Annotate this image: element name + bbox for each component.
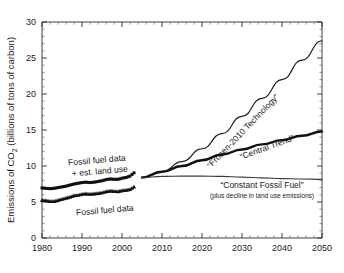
x-tick-label: 2020: [192, 243, 212, 253]
y-tick-label: 20: [26, 89, 36, 99]
svg-text:Emissions of CO2 (billions of: Emissions of CO2 (billions of tons of ca…: [5, 37, 18, 223]
x-tick-label: 2030: [232, 243, 252, 253]
figure-container: 051015202530 198019902000201020202030204…: [0, 0, 344, 273]
x-tick-label: 2040: [272, 243, 292, 253]
x-tick-label: 2010: [152, 243, 172, 253]
x-tick-label: 1980: [32, 243, 52, 253]
y-tick-label: 10: [26, 161, 36, 171]
svg-text:(plus decline in land use emis: (plus decline in land use emissions): [210, 192, 314, 200]
y-tick-label: 0: [31, 233, 36, 243]
y-tick-label: 25: [26, 53, 36, 63]
data-point: [133, 171, 136, 174]
y-tick-label: 5: [31, 197, 36, 207]
y-tick-label: 30: [26, 17, 36, 27]
y-tick-label: 15: [26, 125, 36, 135]
annotation-constant-fossil-fuel-subtitle: (plus decline in land use emissions): [210, 192, 314, 200]
emissions-chart: 051015202530 198019902000201020202030204…: [0, 0, 344, 273]
x-tick-label: 2050: [312, 243, 332, 253]
y-axis-title: Emissions of CO2 (billions of tons of ca…: [5, 37, 18, 223]
x-tick-label: 2000: [112, 243, 132, 253]
annotation-constant-fossil-fuel: “Constant Fossil Fuel”: [220, 180, 303, 190]
x-tick-label: 1990: [72, 243, 92, 253]
svg-text:“Constant Fossil Fuel”: “Constant Fossil Fuel”: [220, 180, 303, 190]
